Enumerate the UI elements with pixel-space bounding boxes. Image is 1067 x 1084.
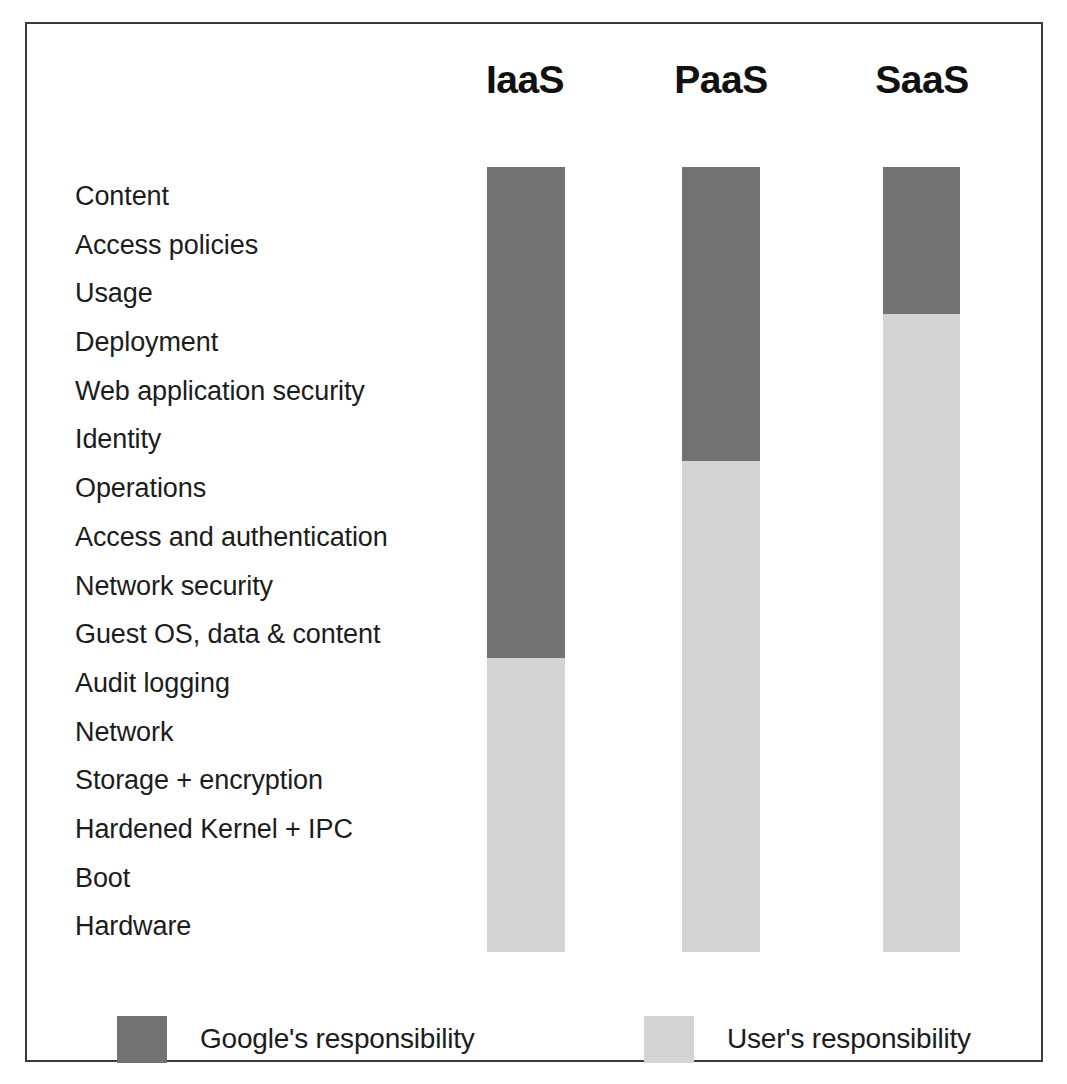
chart-frame: IaaS PaaS SaaS ContentAccess policiesUsa… [25, 22, 1043, 1062]
row-label: Network security [75, 562, 465, 611]
row-label: Storage + encryption [75, 756, 465, 805]
bar-segment-paas-user [682, 461, 760, 952]
row-label: Web application security [75, 367, 465, 416]
row-label: Guest OS, data & content [75, 610, 465, 659]
row-label: Audit logging [75, 659, 465, 708]
column-header-paas: PaaS [631, 56, 811, 104]
legend-label-google: Google's responsibility [200, 1023, 475, 1055]
stacked-bar-saas [883, 167, 960, 952]
bar-segment-saas-user [883, 314, 960, 952]
row-label-list: ContentAccess policiesUsageDeploymentWeb… [75, 172, 465, 951]
row-label: Usage [75, 269, 465, 318]
column-header-iaas: IaaS [435, 56, 615, 104]
row-label: Hardware [75, 902, 465, 951]
column-header-saas: SaaS [832, 56, 1012, 104]
bar-segment-iaas-user [487, 658, 565, 952]
legend-item-google-responsibility: Google's responsibility [117, 1009, 475, 1069]
legend-swatch-google-icon [117, 1016, 167, 1063]
row-label: Access and authentication [75, 513, 465, 562]
chart-legend: Google's responsibility User's responsib… [27, 1009, 1045, 1079]
bar-segment-iaas-google [487, 167, 565, 658]
row-label: Access policies [75, 221, 465, 270]
stacked-bar-paas [682, 167, 760, 952]
row-label: Identity [75, 415, 465, 464]
shared-responsibility-chart: IaaS PaaS SaaS ContentAccess policiesUsa… [0, 0, 1067, 1084]
row-label: Hardened Kernel + IPC [75, 805, 465, 854]
row-label: Content [75, 172, 465, 221]
legend-label-user: User's responsibility [727, 1023, 971, 1055]
bar-segment-paas-google [682, 167, 760, 461]
legend-item-user-responsibility: User's responsibility [644, 1009, 971, 1069]
row-label: Boot [75, 854, 465, 903]
bar-segment-saas-google [883, 167, 960, 314]
stacked-bar-iaas [487, 167, 565, 952]
legend-swatch-user-icon [644, 1016, 694, 1063]
row-label: Network [75, 708, 465, 757]
row-label: Operations [75, 464, 465, 513]
row-label: Deployment [75, 318, 465, 367]
